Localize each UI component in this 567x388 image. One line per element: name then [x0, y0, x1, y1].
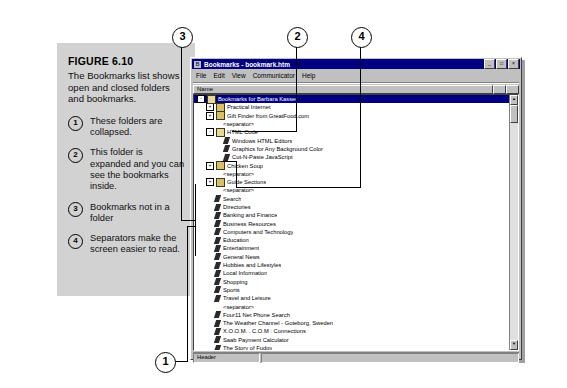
tree-row[interactable]: Four11 Net Phone Search — [194, 311, 509, 319]
figure-note-text: These folders are collapsed. — [90, 116, 186, 139]
tree-row[interactable]: The Story of Fudgy — [194, 344, 509, 350]
bookmark-icon — [214, 336, 221, 343]
tree-row[interactable]: The Weather Channel - Goteborg, Sweden — [194, 319, 509, 327]
collapse-toggle-icon[interactable]: - — [206, 128, 214, 136]
bookmark-icon — [214, 212, 221, 219]
minimize-button[interactable]: _ — [484, 59, 495, 69]
expand-toggle-icon[interactable]: + — [206, 162, 214, 170]
tree-row[interactable]: Saab Payment Calculator — [194, 336, 509, 344]
callout-bubble-1: 1 — [155, 352, 176, 373]
bookmarks-tree-pane[interactable]: -Bookmarks for Barbara Kasser+Practical … — [193, 94, 519, 351]
tree-spacer — [206, 204, 212, 210]
tree-row[interactable]: Graphics for Any Background Color — [194, 145, 509, 153]
maximize-button[interactable]: □ — [496, 59, 507, 69]
tree-row-label: X.O.O.M. . C.O.M : Connections — [223, 328, 306, 334]
menu-item-communicator[interactable]: Communicator — [253, 72, 295, 79]
callout-leader-1-vertical — [187, 226, 188, 362]
tree-row[interactable]: <separator> — [194, 120, 509, 128]
tree-row[interactable]: Hobbies and Lifestyles — [194, 261, 509, 269]
status-bar: Header — [193, 352, 519, 362]
menu-item-view[interactable]: View — [232, 72, 246, 79]
scroll-up-arrow-icon[interactable]: ▲ — [510, 95, 518, 105]
tree-spacer — [206, 229, 212, 235]
tree-row[interactable]: <separator> — [194, 302, 509, 310]
column-header-scroll-right[interactable] — [506, 85, 519, 94]
callout-leader-2-horizontal — [232, 131, 297, 132]
figure-note-2: 2This folder is expanded and you can see… — [68, 147, 186, 192]
tree-row[interactable]: Travel and Leisure — [194, 294, 509, 302]
tree-row[interactable]: Banking and Finance — [194, 211, 509, 219]
tree-row-label: Practical Internet — [227, 104, 271, 110]
collapse-toggle-icon[interactable]: - — [197, 95, 205, 103]
bookmark-icon — [214, 270, 221, 277]
tree-spacer — [215, 146, 221, 152]
figure-notes-list: 1These folders are collapsed.2This folde… — [68, 116, 186, 256]
folder-icon — [216, 178, 225, 187]
expand-toggle-icon[interactable]: + — [206, 103, 214, 111]
tree-row[interactable]: Directories — [194, 203, 509, 211]
bookmark-icon — [223, 145, 230, 152]
tree-spacer — [206, 312, 212, 318]
vertical-scrollbar[interactable]: ▲ ▼ — [509, 95, 518, 350]
tree-spacer — [206, 279, 212, 285]
tree-row-label: Sports — [223, 287, 240, 293]
status-bar-cell: Header — [193, 353, 260, 363]
menu-bar: FileEditViewCommunicatorHelp — [191, 69, 521, 81]
tree-row[interactable]: Local Information — [194, 269, 509, 277]
tree-row[interactable]: Sports — [194, 286, 509, 294]
tree-row[interactable]: Business Resources — [194, 219, 509, 227]
callout-leader-4-horizontal — [236, 187, 361, 188]
tree-row[interactable]: +Chicken Soup — [194, 161, 509, 169]
separator-icon — [214, 170, 221, 177]
figure-note-text: This folder is expanded and you can see … — [90, 147, 186, 192]
tree-row[interactable]: Computers and Technology — [194, 228, 509, 236]
scrollbar-thumb[interactable] — [510, 105, 518, 123]
bookmark-icon — [214, 345, 221, 350]
folder-open-icon — [207, 95, 216, 104]
menu-separator — [193, 82, 519, 84]
tree-row[interactable]: Entertainment — [194, 244, 509, 252]
callout-leader-3-vertical — [181, 46, 182, 221]
menu-item-help[interactable]: Help — [302, 72, 315, 79]
close-button[interactable]: × — [508, 59, 519, 69]
callout-leader-3-tick-top — [195, 184, 196, 221]
tree-spacer — [206, 221, 212, 227]
tree-row[interactable]: +Gift Finder from GreatFood.com — [194, 112, 509, 120]
tree-row[interactable]: General News — [194, 253, 509, 261]
bookmark-icon — [214, 295, 221, 302]
menu-item-file[interactable]: File — [196, 72, 206, 79]
tree-spacer — [206, 196, 212, 202]
figure-note-4: 4Separators make the screen easier to re… — [68, 233, 186, 256]
tree-row[interactable]: Windows HTML Editors — [194, 136, 509, 144]
tree-row[interactable]: +Practical Internet — [194, 103, 509, 111]
bookmarks-tree[interactable]: -Bookmarks for Barbara Kasser+Practical … — [194, 95, 509, 350]
tree-row[interactable]: <separator> — [194, 170, 509, 178]
tree-row[interactable]: X.O.O.M. . C.O.M : Connections — [194, 327, 509, 335]
window-titlebar[interactable]: B Bookmarks - bookmark.htm _ □ × — [192, 59, 520, 69]
tree-row[interactable]: -Bookmarks for Barbara Kasser — [194, 95, 509, 103]
tree-spacer — [206, 287, 212, 293]
tree-row[interactable]: Search — [194, 195, 509, 203]
tree-row-label: Saab Payment Calculator — [223, 337, 289, 343]
expand-toggle-icon[interactable]: + — [206, 112, 214, 120]
tree-spacer — [206, 328, 212, 334]
tree-row-label: Hobbies and Lifestyles — [223, 262, 281, 268]
bookmark-icon — [214, 228, 221, 235]
expand-toggle-icon[interactable]: + — [206, 178, 214, 186]
tree-row[interactable]: Education — [194, 236, 509, 244]
bookmark-icon — [214, 245, 221, 252]
tree-row-label: General News — [223, 254, 260, 260]
tree-row[interactable]: +Guide Sections — [194, 178, 509, 186]
tree-row[interactable]: Shopping — [194, 278, 509, 286]
tree-row-label: Education — [223, 237, 249, 243]
tree-row[interactable]: Cut-N-Paste JavaScript — [194, 153, 509, 161]
separator-icon — [214, 303, 221, 310]
menu-item-edit[interactable]: Edit — [213, 72, 224, 79]
column-header-scroll-left[interactable] — [493, 85, 506, 94]
scrollbar-track[interactable] — [510, 123, 518, 340]
scroll-down-arrow-icon[interactable]: ▼ — [510, 340, 518, 350]
tree-row-label: Four11 Net Phone Search — [223, 312, 290, 318]
callout-bubble-2: 2 — [287, 27, 308, 48]
column-header-name[interactable]: Name — [193, 85, 493, 94]
tree-row-label: Computers and Technology — [223, 229, 293, 235]
